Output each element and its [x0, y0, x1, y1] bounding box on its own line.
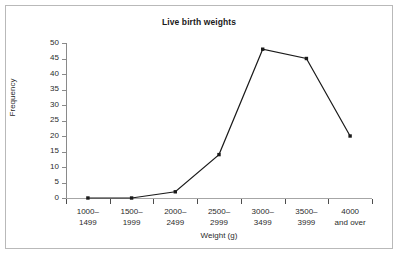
data-point-marker — [86, 196, 89, 199]
data-series-line — [88, 49, 350, 198]
x-tick-mark — [372, 199, 373, 204]
data-point-marker — [217, 153, 220, 156]
chart-figure: Live birth weights Frequency 05101520253… — [0, 0, 398, 254]
data-point-marker — [348, 134, 351, 137]
data-point-marker — [130, 196, 133, 199]
data-point-marker — [305, 57, 308, 60]
x-tick-mark — [153, 199, 154, 204]
data-series-markers — [86, 48, 352, 200]
x-tick-mark — [328, 199, 329, 204]
x-tick-mark — [110, 199, 111, 204]
x-axis-label: Weight (g) — [66, 231, 372, 240]
x-tick-label: 4000and over — [322, 206, 378, 228]
data-point-marker — [261, 48, 264, 51]
x-tick-mark — [241, 199, 242, 204]
x-tick-mark — [66, 199, 67, 204]
x-tick-mark — [197, 199, 198, 204]
data-point-marker — [174, 190, 177, 193]
x-tick-mark — [285, 199, 286, 204]
